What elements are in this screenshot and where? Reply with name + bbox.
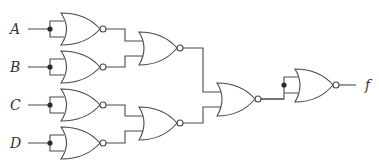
junction-dot bbox=[47, 102, 52, 107]
junction-dot bbox=[281, 82, 286, 87]
junction-dot bbox=[47, 140, 52, 145]
input-label-b: B bbox=[10, 60, 20, 74]
input-label-c: C bbox=[10, 98, 21, 112]
input-label-a: A bbox=[10, 22, 20, 36]
logic-circuit-diagram: A B C D f bbox=[0, 0, 379, 168]
output-label-f: f bbox=[365, 78, 370, 92]
gate-g4 bbox=[28, 127, 106, 159]
junction-dot bbox=[47, 26, 52, 31]
junction-dot bbox=[47, 64, 52, 69]
input-label-d: D bbox=[10, 136, 21, 150]
gate-g3 bbox=[28, 89, 106, 121]
gate-g6 bbox=[106, 105, 183, 143]
gate-g7 bbox=[183, 48, 261, 123]
circuit-svg bbox=[0, 0, 379, 168]
gate-g1 bbox=[28, 13, 106, 45]
gate-g5 bbox=[106, 29, 183, 67]
gate-g2 bbox=[28, 51, 106, 83]
gate-g8 bbox=[261, 69, 356, 102]
